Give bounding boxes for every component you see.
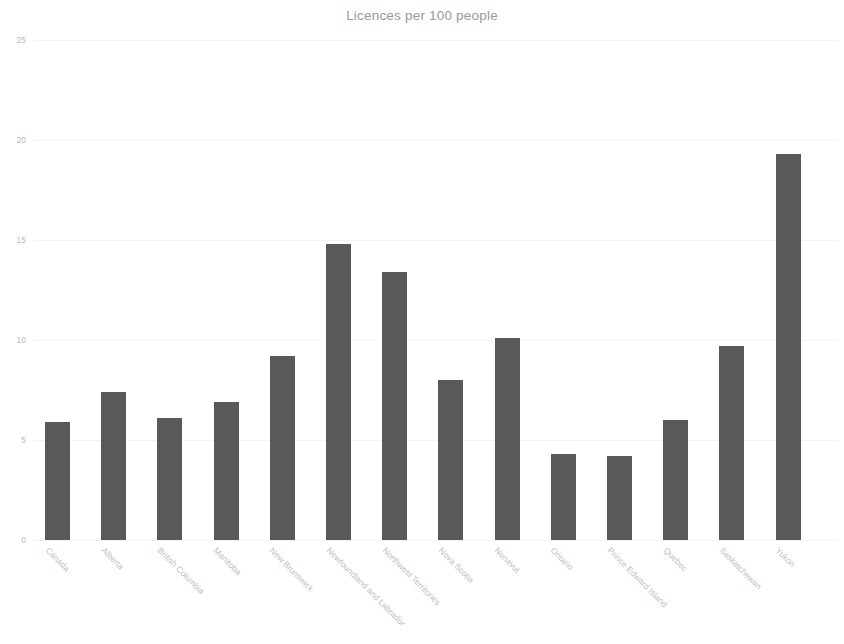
- x-axis-tick-label: Yukon: [774, 546, 797, 569]
- x-axis-tick-label: Quebec: [662, 546, 689, 573]
- x-axis: CanadaAlbertaBritish ColumbiaManitobaNew…: [0, 0, 844, 644]
- x-axis-tick-label: Nova Scotia: [437, 546, 475, 584]
- x-axis-tick-label: Canada: [43, 546, 70, 573]
- bar-chart: Licences per 100 people 0510152025 Canad…: [0, 0, 844, 644]
- x-axis-tick-label: New Brunswick: [268, 546, 315, 593]
- x-axis-tick-label: Ontario: [549, 546, 575, 572]
- x-axis-tick-label: Saskatchewan: [718, 546, 763, 591]
- x-axis-tick-label: British Columbia: [156, 546, 206, 596]
- x-axis-tick-label: Nunavut: [493, 546, 521, 574]
- x-axis-tick-label: Alberta: [100, 546, 125, 571]
- x-axis-tick-label: Manitoba: [212, 546, 243, 577]
- x-axis-tick-label: Prince Edward Island: [605, 546, 668, 609]
- x-axis-tick-label: Northwest Territories: [381, 546, 442, 607]
